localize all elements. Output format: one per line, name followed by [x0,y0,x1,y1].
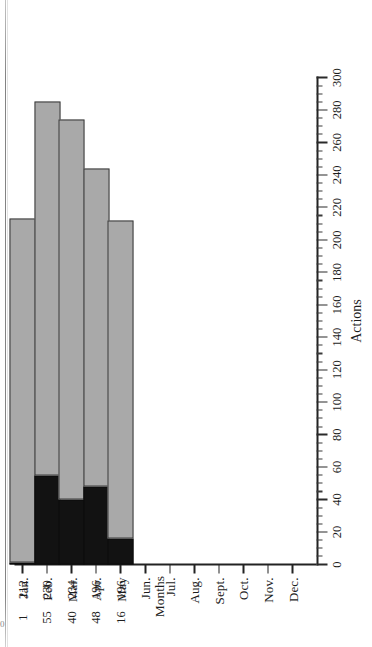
value-axis-minor-tick [316,352,322,353]
category-axis-tick-label: Aug. [187,577,200,647]
value-axis-major-tick [316,433,327,434]
value-axis-major-tick [316,239,327,240]
value-axis-minor-tick [316,312,322,313]
value-axis-minor-tick [316,182,322,183]
value-axis-minor-tick [316,190,322,191]
category-axis-tick-label: Jul. [163,577,176,647]
category-axis-tick-label: Jun. [138,577,151,647]
value-axis-minor-tick [316,361,322,362]
value-axis-major-tick [316,141,327,142]
category-axis-tick [169,564,171,573]
value-axis-minor-tick [316,515,322,516]
value-axis-minor-tick [316,93,322,94]
value-axis-minor-tick [316,166,322,167]
value-axis-minor-tick [316,125,322,126]
value-axis-minor-tick [316,417,322,418]
value-axis-major-tick [316,304,327,305]
value-axis-minor-tick [316,344,322,345]
value-axis-minor-tick [316,393,322,394]
category-axis-tick [267,564,269,573]
value-axis-major-tick [316,466,327,467]
value-axis-minor-tick [316,377,322,378]
data-table-cell: 1 [16,595,29,639]
value-axis-minor-tick [316,101,322,102]
value-axis-minor-tick [316,409,322,410]
value-axis-minor-tick [316,490,322,491]
value-axis-minor-tick [316,263,322,264]
bar-segment-zystrokes[interactable] [34,475,60,564]
value-axis-title: Actions [348,291,364,351]
value-axis-minor-tick [316,523,322,524]
category-axis-tick-label: Nov. [261,577,274,647]
category-axis-tick-label: Sept. [212,577,225,647]
value-axis-minor-tick [316,450,322,451]
value-axis-minor-tick [316,320,322,321]
data-table-cell: 40 [65,595,78,639]
value-axis-minor-tick [316,255,322,256]
value-axis-minor-tick [316,458,322,459]
stacked-bar-chart: Actions Months 0204060801001201401601802… [0,0,372,647]
bar-segment-war-fuzzies[interactable] [34,101,60,474]
value-axis-minor-tick [316,247,322,248]
value-axis-minor-tick [316,231,322,232]
value-axis-minor-tick [316,442,322,443]
value-axis-minor-tick [316,133,322,134]
value-axis-minor-tick [316,482,322,483]
value-axis-minor-tick [316,279,322,280]
value-axis-minor-tick [316,426,322,427]
value-axis-minor-tick [316,547,322,548]
value-axis-major-tick [316,206,327,207]
category-axis-tick [193,564,195,573]
data-table-cell: 16 [114,595,127,639]
bar-segment-war-fuzzies[interactable] [83,168,109,486]
value-axis-minor-tick [316,85,322,86]
value-axis-minor-tick [316,223,322,224]
value-axis-tick-label: 300 [330,57,343,97]
bar-segment-war-fuzzies[interactable] [9,218,35,562]
value-axis-major-tick [316,336,327,337]
bar-segment-war-fuzzies[interactable] [58,119,84,499]
value-axis-minor-tick [316,117,322,118]
value-axis-major-tick [316,401,327,402]
value-axis-major-tick [316,498,327,499]
bar-group[interactable] [34,0,60,647]
value-axis-major-tick [316,271,327,272]
bar-group[interactable] [107,0,133,647]
data-table-cell: 55 [40,595,53,639]
value-axis-minor-tick [316,474,322,475]
value-axis-minor-tick [316,328,322,329]
bar-segment-zystrokes[interactable] [58,499,84,564]
bar-segment-war-fuzzies[interactable] [107,220,133,538]
value-axis-minor-tick [316,555,322,556]
value-axis-minor-tick [316,296,322,297]
scanned-figure-page: 0 Actions Months 02040608010012014016018… [0,0,372,647]
category-axis-tick [218,564,220,573]
value-axis-minor-tick [316,539,322,540]
value-axis-minor-tick [316,507,322,508]
bar-group[interactable] [83,0,109,647]
value-axis-major-tick [316,563,327,564]
bar-group[interactable] [9,0,35,647]
data-table-cell: 48 [89,595,102,639]
category-axis-tick [291,564,293,573]
value-axis-minor-tick [316,385,322,386]
value-axis-minor-tick [316,288,322,289]
value-axis-minor-tick [316,150,322,151]
value-axis-major-tick [316,174,327,175]
value-axis-minor-tick [316,215,322,216]
value-axis-major-tick [316,109,327,110]
bar-segment-zystrokes[interactable] [83,486,109,564]
plot-area: Actions Months 0204060801001201401601802… [0,0,372,647]
rotated-figure-wrapper: Actions Months 0204060801001201401601802… [0,0,372,647]
category-axis-tick [242,564,244,573]
value-axis-major-tick [316,369,327,370]
value-axis-minor-tick [316,158,322,159]
value-axis-major-tick [316,531,327,532]
bar-segment-zystrokes[interactable] [107,538,133,564]
category-axis-tick [144,564,146,573]
value-axis-major-tick [316,76,327,77]
category-axis-tick-label: Dec. [286,577,299,647]
bar-group[interactable] [58,0,84,647]
category-axis-tick-label: Oct. [236,577,249,647]
value-axis-minor-tick [316,198,322,199]
